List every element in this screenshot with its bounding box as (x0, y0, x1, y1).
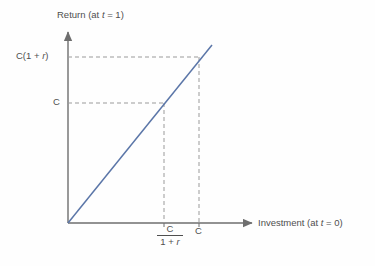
fraction-denominator-variable: r (176, 236, 179, 247)
fraction-denominator: 1 + r (152, 236, 188, 247)
x-tick-label-c-over-1-plus-r: C 1 + r (152, 224, 188, 248)
y-tick-label-c-times-1-plus-r: C(1 + r) (16, 51, 48, 61)
x-axis-title-suffix: = 0) (323, 217, 342, 228)
y-tick-suffix: ) (45, 50, 48, 61)
fraction-numerator: C (152, 224, 188, 235)
y-tick-label-c: C (53, 97, 60, 107)
fraction-denominator-prefix: 1 + (160, 236, 176, 247)
y-axis-title-suffix: = 1) (105, 9, 124, 20)
y-axis-title-prefix: Return (at (57, 9, 102, 20)
return-line (68, 45, 212, 223)
y-tick-prefix: C(1 + (16, 50, 42, 61)
x-axis-title: Investment (at t = 0) (258, 218, 343, 228)
x-tick-label-c: C (195, 226, 202, 236)
chart-figure: Return (at t = 1) Investment (at t = 0) … (0, 0, 375, 266)
y-axis-title: Return (at t = 1) (57, 10, 124, 20)
x-axis-title-prefix: Investment (at (258, 217, 321, 228)
